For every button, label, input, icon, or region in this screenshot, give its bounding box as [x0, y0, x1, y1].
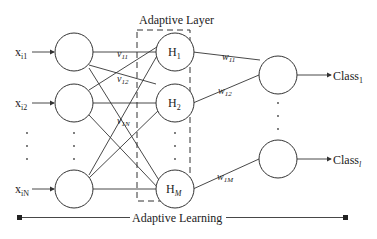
input-node-n [55, 170, 93, 208]
input-node-1 [55, 33, 93, 71]
weight-v11: v11 [117, 48, 128, 61]
output-node-l [259, 140, 297, 178]
input-node-2 [55, 84, 93, 122]
input-label-1: xi1 [15, 45, 27, 61]
hidden-ellipsis [174, 132, 176, 160]
input-label-n: xiN [15, 182, 29, 198]
adaptive-layer-title: Adaptive Layer [139, 13, 214, 27]
weight-v1n: v1N [117, 115, 130, 128]
hidden-output-edges [193, 52, 260, 189]
weight-w1m: w1M [217, 171, 234, 184]
neural-network-diagram: Adaptive Layer xi1 xi2 xiN H1 H2 HM [0, 0, 377, 239]
weight-w11: w11 [222, 51, 235, 64]
input-ellipsis [26, 132, 75, 160]
output-label-1: Class1 [333, 69, 363, 85]
adaptive-learning-label: Adaptive Learning [132, 211, 222, 225]
output-ellipsis [277, 102, 279, 130]
output-label-l: Classl [333, 153, 362, 169]
output-node-1 [259, 56, 297, 94]
input-label-2: xi2 [15, 96, 27, 112]
input-hidden-edges [89, 45, 162, 190]
